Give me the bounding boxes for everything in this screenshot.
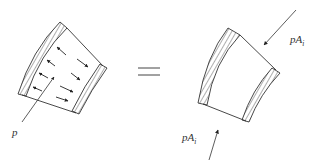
pressure-label: p xyxy=(11,126,18,138)
right-top-edge xyxy=(240,35,276,70)
equals-sign xyxy=(138,68,160,75)
bottom-force-arrow xyxy=(209,130,218,160)
right-bottom-edge xyxy=(203,104,246,121)
diagram-canvas: p pAi pAi xyxy=(0,0,319,168)
left-top-edge xyxy=(67,28,103,66)
right-outer-wall-hatch xyxy=(198,28,240,105)
top-force-label: pAi xyxy=(289,33,304,48)
left-inner-wall-hatch xyxy=(72,64,107,114)
bottom-force-label: pAi xyxy=(181,131,196,146)
right-inner-wall-hatch xyxy=(242,68,280,122)
left-outer-wall-hatch xyxy=(18,22,67,96)
right-element: pAi pAi xyxy=(181,10,304,160)
left-element: p xyxy=(11,22,107,138)
